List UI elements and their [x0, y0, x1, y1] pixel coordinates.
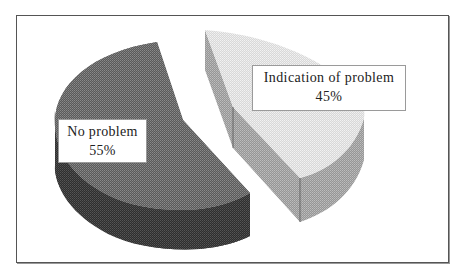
label-percent: 55% [59, 141, 146, 160]
data-label-indication-of-problem: Indication of problem 45% [252, 65, 406, 111]
label-percent: 45% [253, 87, 405, 106]
label-name: No problem [59, 122, 146, 141]
data-label-no-problem: No problem 55% [58, 119, 147, 163]
label-name: Indication of problem [253, 68, 405, 87]
